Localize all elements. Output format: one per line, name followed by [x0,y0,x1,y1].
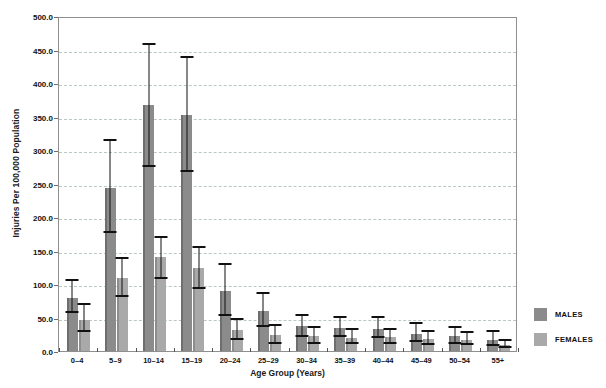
y-tick-label: 150.0 [33,247,53,256]
x-tick-label: 30–34 [288,356,326,365]
x-tick-label: 45–49 [402,356,440,365]
x-tick-label: 5–9 [96,356,134,365]
x-tick-mark [480,348,481,352]
error-bar [308,328,319,351]
legend-label: FEMALES [555,335,593,344]
y-tick-label: 350.0 [33,113,53,122]
error-bar [117,259,128,351]
x-tick-label: 20–24 [211,356,249,365]
x-tick-mark [442,348,443,352]
error-bar [193,248,204,351]
x-tick-label: 15–19 [173,356,211,365]
x-tick-mark [136,348,137,352]
gridline [59,186,516,187]
x-tick-mark [250,348,251,352]
error-bar [411,324,422,351]
x-tick-label: 0–4 [58,356,96,365]
y-axis-ticks: 0.050.0100.0150.0200.0250.0300.0350.0400… [0,0,58,388]
error-bar [232,320,243,351]
x-tick-label: 10–14 [135,356,173,365]
gridline [59,119,516,120]
error-bar [258,294,269,351]
y-tick-label: 50.0 [37,314,53,323]
legend-swatch-icon [534,308,547,321]
x-tick-label: 50–54 [441,356,479,365]
x-tick-mark [365,348,366,352]
error-bar [449,328,460,351]
y-tick-label: 400.0 [33,80,53,89]
error-bar [499,341,510,351]
x-tick-mark [403,348,404,352]
gridline [59,253,516,254]
gridline [59,52,516,53]
chart-legend: MALESFEMALES [534,308,593,358]
x-tick-mark [289,348,290,352]
x-tick-label: 40–44 [364,356,402,365]
legend-item-females: FEMALES [534,333,593,346]
x-axis-label: Age Group (Years) [58,368,517,378]
x-tick-label: 25–29 [249,356,287,365]
legend-label: MALES [555,310,583,319]
y-tick-label: 200.0 [33,214,53,223]
y-tick-label: 100.0 [33,281,53,290]
injury-rate-bar-chart: Injuries Per 100,000 Population 0.050.01… [0,0,606,388]
x-tick-mark [212,348,213,352]
legend-swatch-icon [534,333,547,346]
gridline [59,152,516,153]
legend-item-males: MALES [534,308,593,321]
error-bar [346,330,357,351]
error-bar [423,332,434,351]
y-tick-mark [54,352,58,353]
error-bar [487,332,498,351]
error-bar [373,318,384,351]
error-bar [385,330,396,351]
x-tick-label: 55+ [479,356,517,365]
y-tick-label: 0.0 [42,348,53,357]
error-bar [67,281,78,351]
x-tick-mark [327,348,328,352]
y-tick-label: 500.0 [33,13,53,22]
error-bar [334,318,345,352]
error-bar [461,333,472,351]
error-bar [270,326,281,351]
x-tick-label: 35–39 [326,356,364,365]
error-bar [79,305,90,351]
x-tick-mark [59,348,60,352]
plot-area [58,17,517,352]
gridline [59,219,516,220]
error-bar [155,238,166,351]
error-bar [296,316,307,352]
y-tick-label: 300.0 [33,147,53,156]
error-bar [105,141,116,351]
error-bar [220,265,231,351]
gridline [59,85,516,86]
x-tick-mark [174,348,175,352]
y-tick-label: 250.0 [33,180,53,189]
y-tick-label: 450.0 [33,46,53,55]
x-tick-mark [97,348,98,352]
error-bar [181,58,192,351]
error-bar [143,45,154,351]
x-tick-mark [518,348,519,352]
